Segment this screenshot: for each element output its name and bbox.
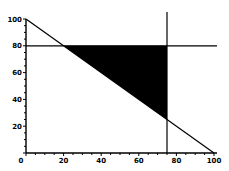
- y-tick-label: 40: [12, 96, 22, 104]
- x-tick-label: 20: [59, 157, 69, 165]
- y-tick-label: 20: [12, 123, 22, 131]
- tick-labels: 02040608010020406080100: [7, 16, 221, 166]
- x-tick-label: 40: [96, 157, 106, 165]
- x-tick-label: 0: [19, 157, 24, 165]
- constraint-line-0: [26, 19, 214, 153]
- tick-marks: [23, 19, 214, 156]
- x-tick-label: 60: [134, 157, 144, 165]
- x-tick-label: 80: [172, 157, 182, 165]
- y-tick-label: 60: [12, 69, 22, 77]
- feasible-region-chart: 02040608010020406080100: [0, 0, 229, 171]
- y-tick-label: 100: [7, 16, 22, 24]
- x-tick-label: 100: [207, 157, 222, 165]
- y-tick-label: 80: [12, 42, 22, 50]
